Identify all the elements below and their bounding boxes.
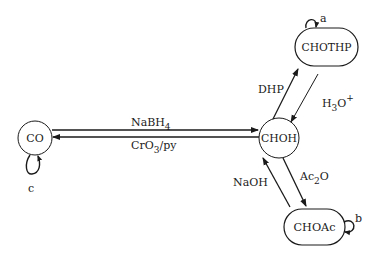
reaction-diagram: CO CHOH CHOTHP CHOAc NaBH4 CrO3/py DHP H…	[0, 0, 377, 260]
self-loop-a: a	[306, 12, 327, 28]
node-choh: CHOH	[259, 118, 299, 158]
loop-a-arrow	[306, 20, 316, 28]
arrow-chothp-to-choh	[291, 74, 318, 122]
loop-c-label: c	[28, 182, 34, 195]
label-cro3-py: CrO3/py	[131, 139, 177, 155]
node-chothp-label: CHOTHP	[302, 41, 353, 54]
self-loop-b: b	[344, 212, 362, 232]
node-chothp: CHOTHP	[295, 28, 358, 66]
node-co-label: CO	[26, 132, 43, 145]
node-choh-label: CHOH	[261, 132, 297, 145]
loop-a-label: a	[320, 12, 327, 25]
node-choac-label: CHOAc	[294, 221, 336, 234]
loop-c-arrow	[26, 155, 39, 174]
label-naoh: NaOH	[233, 176, 268, 189]
label-h3o-plus: H3O+	[322, 93, 354, 113]
node-choac: CHOAc	[284, 209, 345, 245]
loop-b-label: b	[355, 212, 362, 225]
label-ac2o: Ac2O	[299, 170, 329, 186]
self-loop-c: c	[26, 155, 39, 195]
label-dhp: DHP	[258, 83, 284, 96]
node-co: CO	[18, 121, 52, 155]
